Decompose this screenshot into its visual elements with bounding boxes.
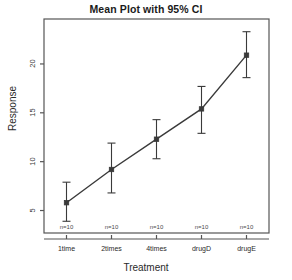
y-tick-label: 20: [28, 53, 37, 73]
data-point-marker: [244, 53, 248, 57]
sample-size-label: n=10: [227, 224, 267, 230]
sample-size-label: n=10: [182, 224, 222, 230]
x-tick-label: drugE: [221, 245, 273, 252]
data-point-marker: [199, 107, 203, 111]
plot-canvas: [0, 0, 292, 280]
y-tick-label: 10: [28, 151, 37, 171]
data-point-marker: [154, 137, 158, 141]
sample-size-label: n=10: [92, 224, 132, 230]
sample-size-label: n=10: [137, 224, 177, 230]
y-tick-label: 15: [28, 102, 37, 122]
data-point-marker: [64, 201, 68, 205]
sample-size-label: n=10: [47, 224, 87, 230]
mean-plot-chart: Mean Plot with 95% CI Response Treatment…: [0, 0, 292, 280]
data-point-marker: [109, 167, 113, 171]
y-tick-label: 5: [28, 200, 37, 220]
